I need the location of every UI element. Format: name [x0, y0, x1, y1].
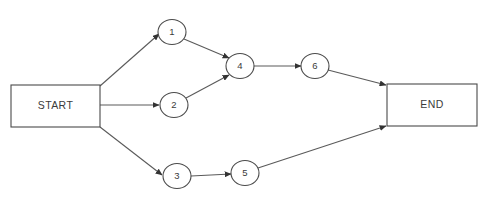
- node-2-label: 2: [171, 99, 176, 110]
- node-4[interactable]: 4: [226, 54, 254, 79]
- node-6-label: 6: [312, 60, 317, 71]
- edge-start-to-n1: [100, 34, 159, 86]
- node-1-label: 1: [169, 26, 174, 37]
- terminal-start[interactable]: START: [11, 85, 100, 127]
- terminals-layer: STARTEND: [11, 84, 477, 127]
- node-4-label: 4: [237, 60, 242, 71]
- edge-n2-to-n4: [186, 75, 229, 98]
- diagram-canvas: 123456 STARTEND: [0, 0, 488, 199]
- edge-n6-to-end: [328, 70, 386, 85]
- terminal-end-label: END: [420, 98, 443, 110]
- edge-n5-to-end: [258, 126, 386, 168]
- node-1[interactable]: 1: [158, 20, 186, 45]
- node-2[interactable]: 2: [160, 93, 188, 118]
- nodes-layer: 123456: [158, 20, 329, 189]
- node-5[interactable]: 5: [231, 161, 259, 186]
- terminal-start-label: START: [38, 99, 74, 111]
- node-3[interactable]: 3: [163, 164, 191, 189]
- flow-diagram: 123456 STARTEND: [0, 0, 488, 199]
- terminal-end[interactable]: END: [387, 84, 477, 126]
- edge-n3-to-n5: [191, 174, 231, 176]
- edge-start-to-n3: [100, 127, 162, 175]
- node-6[interactable]: 6: [301, 54, 329, 79]
- node-5-label: 5: [242, 167, 247, 178]
- edge-n1-to-n4: [184, 39, 229, 58]
- node-3-label: 3: [174, 170, 179, 181]
